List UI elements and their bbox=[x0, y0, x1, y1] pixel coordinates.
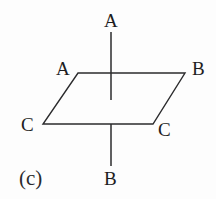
figure-caption: (c) bbox=[19, 168, 42, 189]
vertex-bottom-left-label: C bbox=[21, 115, 34, 134]
vertex-bottom-right-label: C bbox=[158, 120, 171, 139]
vertex-top-left-label: A bbox=[56, 59, 70, 78]
figure-panel: A A B C C B (c) bbox=[0, 0, 216, 199]
parallelogram-shape bbox=[43, 73, 185, 124]
vertex-top-right-label: B bbox=[192, 59, 205, 78]
axis-bottom-label: B bbox=[104, 169, 117, 188]
axis-top-label: A bbox=[104, 11, 118, 30]
